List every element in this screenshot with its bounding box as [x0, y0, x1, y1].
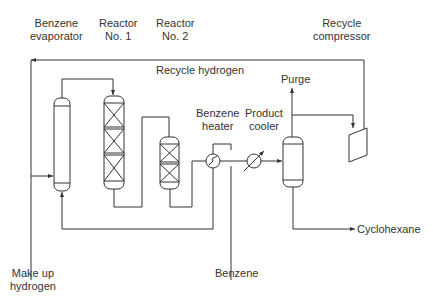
process-flow-diagram: [0, 0, 433, 305]
label-product-cooler: Product cooler: [245, 107, 283, 133]
label-benzene-evaporator: Benzene evaporator: [30, 17, 83, 43]
label-benzene-feed: Benzene: [215, 267, 258, 280]
separator-to-compressor-line: [292, 115, 353, 128]
benzene-heater: [206, 154, 220, 168]
benzene-evaporator: [54, 98, 70, 191]
label-reactor-1: Reactor No. 1: [99, 17, 138, 43]
cyclohexane-line: [293, 187, 355, 229]
recycle-compressor: [349, 128, 367, 162]
label-purge: Purge: [281, 73, 310, 86]
reactor-2: [160, 137, 179, 189]
recycle-hydrogen-line: [31, 60, 364, 280]
label-makeup-hydrogen: Make up hydrogen: [10, 267, 56, 293]
separator-vessel: [283, 137, 303, 187]
label-recycle-hydrogen: Recycle hydrogen: [156, 64, 244, 77]
evaporator-to-reactor1-line: [62, 79, 113, 100]
label-cyclohexane: Cyclohexane: [357, 223, 421, 236]
heater-to-evaporator-line: [62, 168, 213, 229]
label-benzene-heater: Benzene heater: [196, 107, 239, 133]
heater-shell-line: [213, 144, 231, 154]
reactor-1: [104, 96, 124, 189]
label-recycle-compressor: Recycle compressor: [313, 17, 370, 43]
label-reactor-2: Reactor No. 2: [156, 17, 195, 43]
